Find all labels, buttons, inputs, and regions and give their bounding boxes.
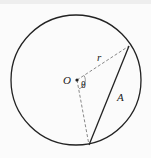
diagram-canvas: O r θ A [0, 0, 151, 158]
radius-label: r [97, 51, 102, 63]
center-label: O [63, 74, 71, 86]
center-point [75, 78, 78, 81]
radius-line-upper [77, 46, 129, 80]
segment-label: A [116, 91, 124, 103]
circle-segment-diagram: O r θ A [0, 0, 151, 158]
angle-label: θ [81, 79, 86, 90]
